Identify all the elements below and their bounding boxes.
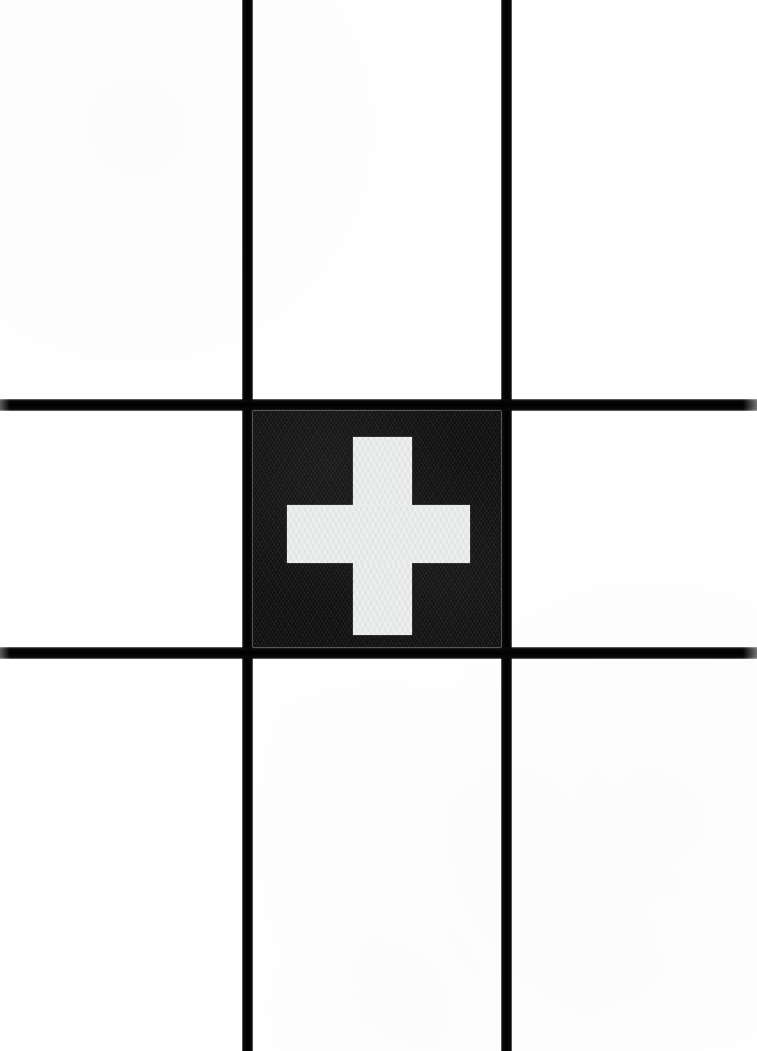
center-cell: [253, 411, 501, 647]
horizontal-line-2-left-fade: [0, 647, 10, 659]
horizontal-line-1: [0, 399, 757, 411]
center-cell-sheen: [253, 411, 501, 647]
artwork-canvas: [0, 0, 757, 1051]
horizontal-line-2: [0, 647, 757, 659]
vertical-line-1: [242, 0, 253, 1051]
horizontal-line-1-right-fade: [743, 399, 757, 411]
vertical-line-2: [501, 0, 512, 1051]
horizontal-line-1-left-fade: [0, 399, 10, 411]
horizontal-line-2-right-fade: [743, 647, 757, 659]
center-cell-weave-texture: [253, 411, 501, 647]
